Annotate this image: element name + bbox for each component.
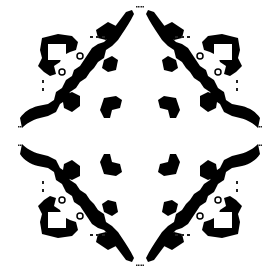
quadrant-bottom-left xyxy=(18,144,140,266)
quadrant-bottom-right xyxy=(141,144,263,266)
quadrant-top-left xyxy=(18,6,140,128)
floor-plan xyxy=(0,0,280,272)
quadrant-top-right xyxy=(141,6,263,128)
